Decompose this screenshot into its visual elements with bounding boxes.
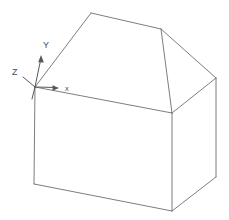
x-axis-line (35, 87, 55, 88)
x-axis-label: x (65, 84, 69, 93)
edge-roof-ridge (91, 13, 161, 29)
edge-wall-left (34, 87, 35, 184)
edge-base-right (172, 177, 216, 211)
z-axis-indicator[interactable]: Z (12, 67, 35, 87)
edge-roof-hip-front-left (35, 13, 91, 87)
y-axis-indicator[interactable]: Y (35, 40, 49, 87)
y-axis-label: Y (43, 40, 49, 50)
edge-roof-hip-back-right (161, 29, 216, 78)
y-axis-arrowhead (38, 55, 44, 63)
drawing-canvas[interactable]: Y Z x (0, 0, 229, 220)
x-axis-arrowhead (53, 85, 60, 90)
house-edges (34, 13, 216, 211)
z-axis-line (23, 77, 35, 87)
x-axis-indicator[interactable]: x (35, 84, 69, 93)
edge-eave-front (35, 87, 172, 113)
edge-base-front (34, 184, 172, 211)
edge-eave-right (172, 78, 216, 113)
axis-triad[interactable]: Y Z x (12, 40, 69, 99)
house-wireframe-scene: Y Z x (0, 0, 229, 220)
edge-roof-hip-front-right (161, 29, 172, 113)
z-axis-label: Z (12, 67, 18, 77)
